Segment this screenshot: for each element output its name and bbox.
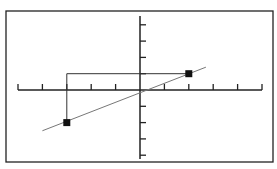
data-point-square xyxy=(185,70,192,77)
chart xyxy=(0,0,277,169)
data-point-square xyxy=(63,119,70,126)
